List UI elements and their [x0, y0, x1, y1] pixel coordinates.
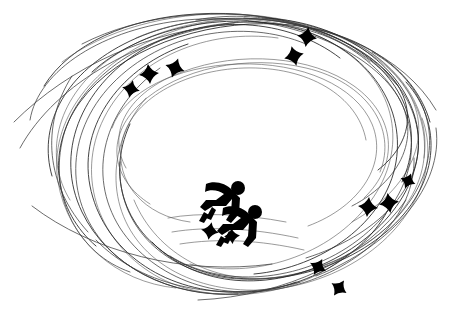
scribble-artwork-svg: [0, 0, 459, 317]
artwork-canvas: Scribbled oval sketch with sparkles and …: [0, 0, 459, 317]
